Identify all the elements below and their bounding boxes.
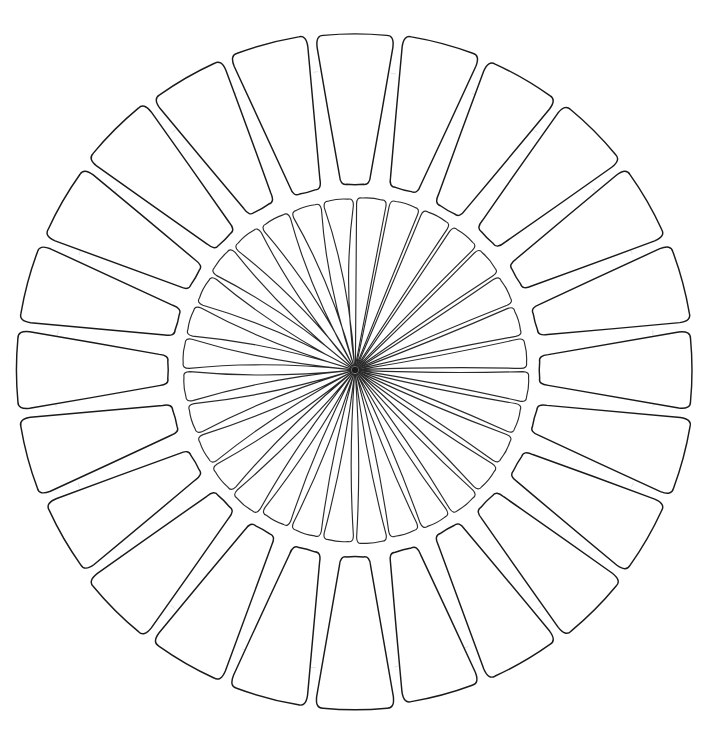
drawing-canvas [0,0,714,741]
center-convergence-point [352,367,358,373]
center-ray-layer [352,367,358,373]
rosette-figure [0,0,714,741]
